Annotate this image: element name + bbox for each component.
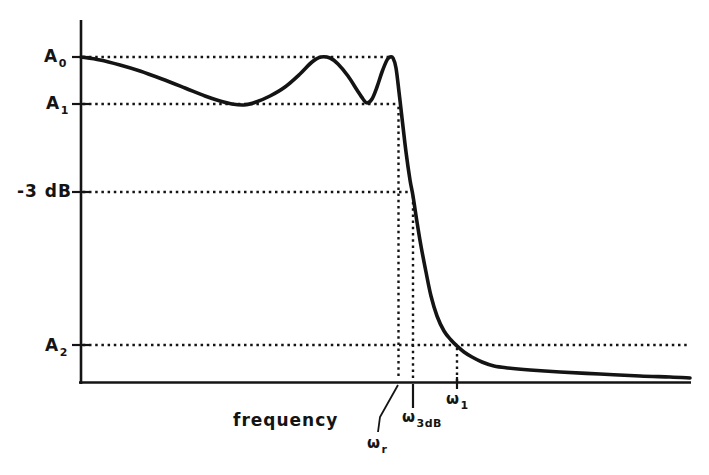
omega-r-leader-line: [378, 385, 398, 432]
y-label-a2-sub: 2: [60, 346, 68, 359]
y-label-a2-base: A: [45, 335, 59, 355]
x-label-omega-3db-base: ω: [402, 408, 416, 426]
y-label-a0: A0: [44, 46, 66, 66]
x-label-omega-r-base: ω: [367, 434, 381, 452]
y-label-a0-sub: 0: [59, 57, 67, 70]
response-curve: [81, 57, 690, 378]
x-label-omega-1: ω1: [446, 390, 468, 408]
filter-response-figure: A0 A1 -3 dB A2 frequency ωr ω3dB ω1: [0, 0, 709, 475]
x-label-omega-1-sub: 1: [461, 399, 469, 412]
y-label-a2: A2: [45, 335, 67, 355]
x-label-omega-3db-sub: 3dB: [417, 417, 442, 430]
x-label-omega-r-sub: r: [382, 443, 388, 456]
x-label-omega-1-base: ω: [446, 390, 460, 408]
x-label-omega-3db: ω3dB: [402, 408, 441, 426]
x-label-omega-r: ωr: [367, 434, 386, 452]
y-label-a1: A1: [46, 93, 68, 113]
y-label-minus3db: -3 dB: [17, 181, 72, 201]
plot-svg: [0, 0, 709, 475]
x-axis-title: frequency: [233, 410, 338, 430]
y-label-minus3db-text: -3 dB: [17, 181, 72, 201]
y-label-a1-sub: 1: [61, 104, 69, 117]
y-label-a1-base: A: [46, 93, 60, 113]
y-label-a0-base: A: [44, 46, 58, 66]
x-axis-title-text: frequency: [233, 410, 338, 430]
